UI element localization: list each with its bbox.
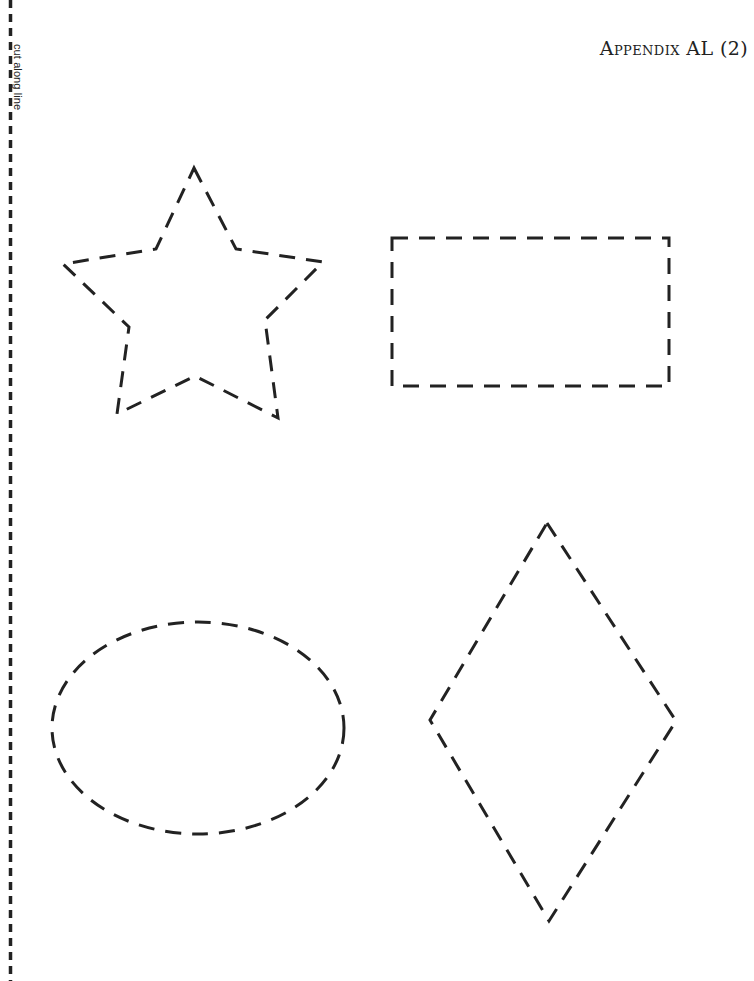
oval-shape <box>52 622 344 834</box>
worksheet-page: cut along line Appendix AL (2) <box>0 0 754 981</box>
diamond-shape <box>430 523 676 921</box>
star-shape <box>63 168 323 418</box>
shapes-canvas <box>0 0 754 981</box>
rectangle-shape <box>392 238 669 386</box>
